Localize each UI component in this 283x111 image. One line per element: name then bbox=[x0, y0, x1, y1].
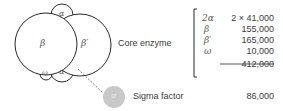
omega-label: ω bbox=[42, 69, 48, 77]
sigma-factor-label: Sigma factor bbox=[133, 91, 184, 101]
row-mass: 155,000 bbox=[241, 24, 274, 34]
row-mass: 2 × 41,000 bbox=[231, 13, 274, 23]
beta-label: β bbox=[40, 38, 45, 48]
sigma-label: σ bbox=[111, 91, 116, 100]
row-subunit: β bbox=[204, 24, 209, 34]
beta-prime-label: β′ bbox=[81, 38, 88, 48]
rna-polymerase-diagram: β β′ α α ω σ Core enzyme 2α 2 × 41,000 β… bbox=[0, 0, 283, 111]
beta-subunit bbox=[15, 13, 77, 75]
alpha-bottom-label: α bbox=[59, 67, 64, 76]
core-bracket bbox=[194, 9, 197, 77]
alpha-top-label: α bbox=[59, 9, 64, 18]
core-total-mass: 412,000 bbox=[241, 59, 274, 69]
row-mass: 10,000 bbox=[246, 46, 274, 56]
row-mass: 165,000 bbox=[241, 35, 274, 45]
core-enzyme-label: Core enzyme bbox=[118, 38, 172, 48]
row-subunit: 2α bbox=[202, 13, 214, 23]
sigma-factor-mass: 86,000 bbox=[246, 91, 274, 101]
row-subunit: β′ bbox=[204, 35, 211, 45]
row-subunit: ω bbox=[204, 46, 211, 56]
